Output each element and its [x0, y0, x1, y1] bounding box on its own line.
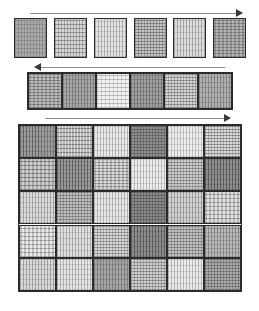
arrow-shaft — [30, 13, 242, 14]
texture-patch — [130, 191, 167, 224]
texture-patch — [130, 258, 167, 291]
texture-patch — [167, 158, 204, 191]
texture-patch — [173, 18, 206, 58]
arrow-left-middle-row — [35, 63, 225, 72]
texture-patch — [19, 158, 56, 191]
texture-patch — [56, 158, 93, 191]
texture-patch — [19, 225, 56, 258]
texture-patch — [204, 258, 241, 291]
arrow-shaft — [45, 118, 230, 119]
texture-patch — [167, 125, 204, 158]
texture-patch — [56, 225, 93, 258]
texture-patch — [167, 225, 204, 258]
texture-patch — [93, 258, 130, 291]
texture-patch — [130, 225, 167, 258]
texture-patch — [93, 125, 130, 158]
texture-patch — [130, 125, 167, 158]
texture-patch — [204, 191, 241, 224]
panel-patch-grid — [18, 124, 242, 292]
texture-patch — [93, 158, 130, 191]
texture-patch — [204, 225, 241, 258]
texture-patch — [19, 125, 56, 158]
arrow-right-top-row — [30, 9, 242, 18]
texture-patch — [14, 18, 47, 58]
arrow-right-bottom-grid — [45, 114, 230, 123]
texture-patch — [62, 73, 96, 109]
texture-patch — [28, 73, 62, 109]
arrow-head-icon — [236, 9, 243, 17]
texture-patch — [134, 18, 167, 58]
texture-patch — [213, 18, 246, 58]
texture-patch — [167, 191, 204, 224]
texture-patch — [54, 18, 87, 58]
texture-patch — [96, 73, 130, 109]
texture-patch — [164, 73, 198, 109]
texture-patch — [204, 158, 241, 191]
texture-patch — [19, 191, 56, 224]
texture-patch — [93, 225, 130, 258]
panel-adjacent-patch-row — [27, 72, 233, 110]
texture-patch — [56, 258, 93, 291]
arrow-head-icon — [224, 114, 231, 122]
texture-patch — [56, 125, 93, 158]
texture-patch — [130, 158, 167, 191]
arrow-head-icon — [34, 63, 41, 71]
texture-patch — [204, 125, 241, 158]
arrow-shaft — [35, 67, 225, 68]
texture-patch — [130, 73, 164, 109]
texture-patch — [167, 258, 204, 291]
texture-patch — [93, 191, 130, 224]
texture-patch — [19, 258, 56, 291]
texture-patch-figure — [0, 0, 259, 311]
texture-patch — [56, 191, 93, 224]
texture-patch — [94, 18, 127, 58]
texture-patch — [198, 73, 232, 109]
